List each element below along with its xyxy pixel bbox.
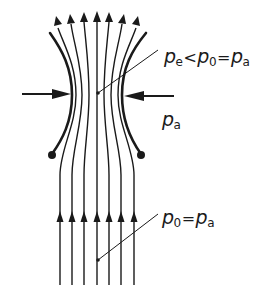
throat-point	[96, 91, 100, 95]
arrow-up-icon	[106, 211, 113, 222]
symbol-p: p	[196, 206, 208, 228]
arrow-up-icon	[105, 12, 113, 22]
arrow-up-icon	[67, 14, 75, 24]
streamline-5	[104, 22, 109, 285]
arrow-right-icon	[52, 89, 71, 99]
symbol-p: p	[197, 45, 209, 67]
throat-leader	[98, 50, 158, 93]
left-edge-dot	[48, 151, 56, 159]
equals: =	[182, 209, 195, 228]
streamline-2	[71, 24, 82, 285]
subscript-0: 0	[209, 55, 216, 69]
arrow-up-icon	[118, 14, 126, 24]
streamline-3	[84, 22, 89, 285]
arrow-up-icon	[93, 11, 101, 22]
arrow-up-icon	[57, 211, 64, 222]
arrow-up-icon	[118, 211, 125, 222]
jet-diagram	[0, 0, 260, 298]
streamlines	[58, 20, 136, 285]
arrow-up-icon	[69, 211, 76, 222]
inlet-point	[96, 258, 100, 262]
symbol-p: p	[164, 45, 176, 67]
arrow-up-icon	[80, 12, 88, 22]
equals: =	[217, 48, 230, 67]
arrow-up-icon	[81, 211, 88, 222]
inlet-pressure-label: p0=pa	[162, 208, 214, 229]
ambient-pressure-label: pa	[162, 110, 180, 131]
subscript-a: a	[207, 216, 214, 230]
bottom-arrowheads	[57, 211, 138, 222]
arrow-up-icon	[132, 16, 140, 26]
pressure-arrows	[22, 89, 174, 101]
arrow-up-icon	[131, 211, 138, 222]
arrow-up-icon	[54, 16, 62, 26]
arrow-left-icon	[124, 91, 144, 101]
leader-lines	[96, 50, 158, 262]
less-than: <	[183, 48, 196, 67]
subscript-a: a	[174, 118, 181, 132]
subscript-a: a	[243, 55, 250, 69]
right-edge-dot	[137, 151, 145, 159]
symbol-p: p	[162, 108, 174, 130]
subscript-0: 0	[174, 216, 181, 230]
symbol-p: p	[162, 206, 174, 228]
symbol-p: p	[231, 45, 243, 67]
arrow-up-icon	[94, 211, 101, 222]
subscript-e: e	[176, 55, 183, 69]
throat-pressure-label: pe<p0=pa	[164, 47, 249, 68]
